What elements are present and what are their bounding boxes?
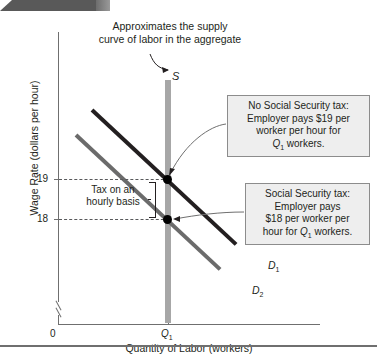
demand-curve-d1-label: D1 (268, 259, 280, 273)
top-banner (0, 0, 377, 11)
x-tick-label-q1: Q1 (161, 328, 173, 341)
d2-label-text: D (252, 284, 260, 296)
callout-no-social-security-tax: No Social Security tax: Employer pays $1… (227, 95, 370, 157)
d1-label-text: D (268, 259, 276, 271)
callout-with-tax-line3: $18 per worker per (251, 213, 364, 226)
y-axis-title: Wage Rate (dollars per hour) (28, 48, 40, 248)
callout-with-tax-q: Q (300, 226, 308, 237)
callout-with-tax-rest: workers. (312, 226, 353, 237)
x-tick-label-q1-text: Q (161, 328, 169, 339)
supply-caption-line2: curve of labor in the aggregate (72, 33, 268, 46)
y-axis-line (58, 32, 59, 302)
callout-no-tax-rest: workers. (284, 138, 325, 149)
supply-curve-label: S (172, 70, 179, 82)
tax-note-line2: hourly basis (78, 196, 148, 208)
banner-tab-shape (0, 0, 108, 11)
banner-tab-taper (0, 0, 12, 11)
d1-label-subscript: 1 (276, 266, 280, 273)
supply-curve-caption: Approximates the supply curve of labor i… (72, 20, 268, 46)
equilibrium-point-18 (163, 215, 172, 224)
leader-lines (0, 12, 377, 336)
callout-with-tax-line2: Employer pays (251, 201, 364, 214)
x-tick-label-q1-subscript: 1 (169, 334, 173, 341)
guide-line-wage-19 (59, 179, 169, 180)
supply-curve (165, 80, 171, 323)
callout-no-tax-line1: No Social Security tax: (233, 100, 364, 113)
callout-with-tax-line4: hour for Q1 workers. (251, 226, 364, 243)
tax-brace (148, 182, 158, 218)
tax-bracket-note: Tax on an hourly basis (78, 184, 148, 208)
callout-no-tax-q: Q (272, 138, 280, 149)
d2-label-subscript: 2 (260, 291, 264, 298)
callout-no-tax-line3: worker per hour for (233, 125, 364, 138)
axis-break-icon (52, 300, 66, 318)
chart-plot-area: 19 18 0 Q1 Wage Rate (dollars per hour) … (0, 12, 377, 336)
callout-no-tax-line4: Q1 workers. (233, 138, 364, 155)
callout-with-tax-pre: hour for (263, 226, 300, 237)
origin-label: 0 (50, 328, 56, 339)
x-axis-line (58, 324, 320, 325)
guide-line-wage-18 (59, 219, 169, 220)
tax-note-line1: Tax on an (78, 184, 148, 196)
callout-no-tax-line2: Employer pays $19 per (233, 113, 364, 126)
bottom-divider-rule (0, 345, 377, 347)
banner-tab-gradient (96, 0, 110, 11)
equilibrium-point-19 (163, 175, 172, 184)
supply-caption-line1: Approximates the supply (72, 20, 268, 33)
callout-social-security-tax: Social Security tax: Employer pays $18 p… (245, 183, 370, 245)
x-axis-title: Quantity of Labor (workers) (58, 342, 320, 354)
callout-with-tax-line1: Social Security tax: (251, 188, 364, 201)
demand-curve-d2-label: D2 (252, 284, 264, 298)
